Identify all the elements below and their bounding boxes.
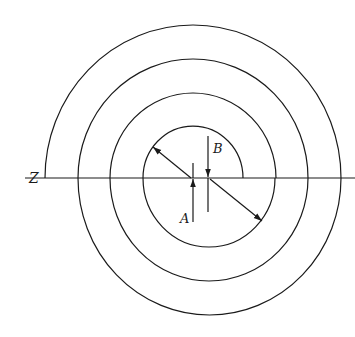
lower-semicircle-2 bbox=[110, 178, 308, 281]
upper-semicircle-4 bbox=[45, 25, 341, 178]
radius-arrow-upper bbox=[153, 147, 191, 178]
lower-semicircle-1 bbox=[143, 178, 275, 247]
axis-label-z: Z bbox=[29, 171, 39, 185]
diagram-canvas: Z A B bbox=[0, 0, 355, 337]
concentric-semicircles-diagram bbox=[0, 0, 355, 337]
upper-semicircle-3 bbox=[78, 59, 308, 178]
radius-arrow-lower bbox=[210, 179, 262, 221]
center-label-b: B bbox=[213, 142, 223, 155]
center-label-a: A bbox=[180, 212, 189, 225]
